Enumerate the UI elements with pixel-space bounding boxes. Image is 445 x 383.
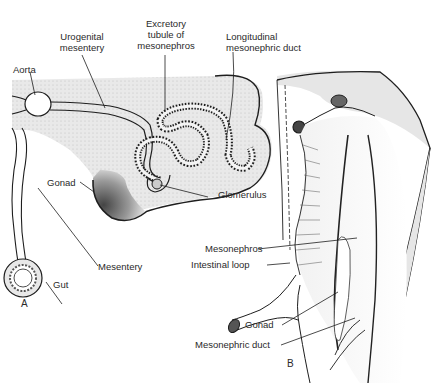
label-gonad-a: Gonad: [47, 177, 76, 188]
panel-label-a: A: [21, 298, 28, 309]
label-intestinal-loop: Intestinal loop: [191, 259, 250, 270]
label-line: mesonephric duct: [226, 42, 301, 53]
diagram-canvas: Aorta Urogenital mesentery Excretory tub…: [0, 0, 445, 383]
label-mesonephric-duct: Mesonephric duct: [195, 339, 270, 350]
label-line: Longitudinal: [226, 31, 301, 42]
label-gut: Gut: [53, 279, 68, 290]
label-longitudinal-mesonephric-duct: Longitudinal mesonephric duct: [226, 31, 301, 53]
label-line: tubule of: [130, 29, 202, 40]
label-line: mesonephros: [130, 40, 202, 51]
label-line: Excretory: [130, 18, 202, 29]
label-line: mesentery: [52, 42, 112, 53]
label-mesonephros: Mesonephros: [205, 243, 263, 254]
label-gonad-b: Gonad: [245, 319, 274, 330]
label-line: Urogenital: [52, 31, 112, 42]
panel-label-b: B: [287, 358, 294, 369]
label-urogenital-mesentery: Urogenital mesentery: [52, 31, 112, 53]
label-excretory-tubule: Excretory tubule of mesonephros: [130, 18, 202, 51]
label-glomerulus: Glomerulus: [218, 189, 267, 200]
label-mesentery: Mesentery: [98, 261, 142, 272]
label-aorta: Aorta: [13, 64, 36, 75]
